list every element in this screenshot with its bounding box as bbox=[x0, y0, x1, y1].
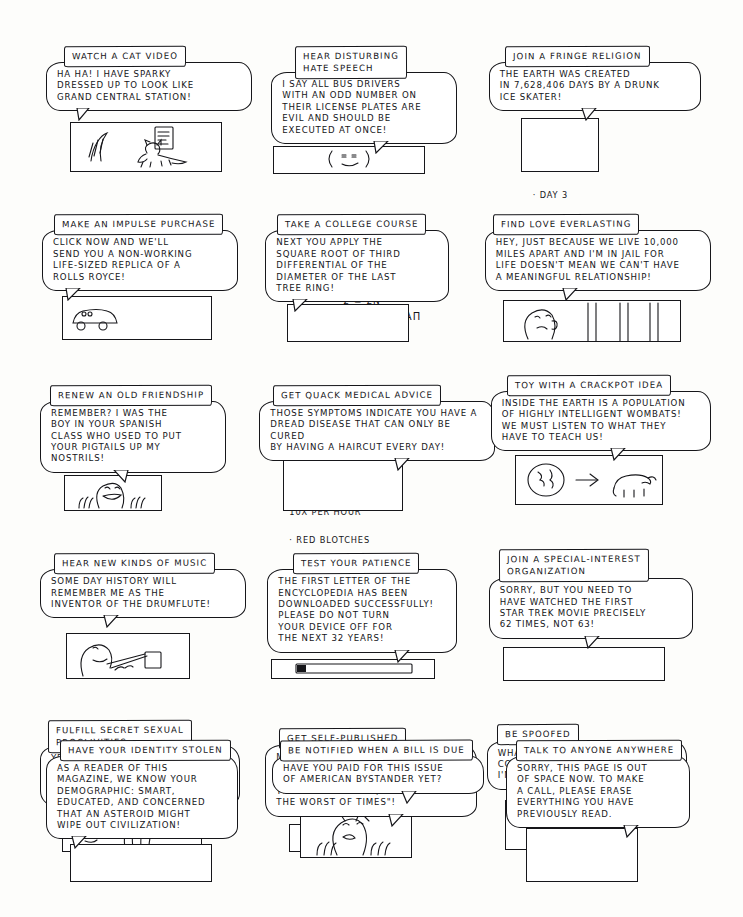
speech-bubble: INSIDE THE EARTH IS A POPULATION OF HIGH… bbox=[491, 391, 711, 452]
angry-face-small-icon bbox=[274, 147, 424, 173]
face-behind-bars-icon bbox=[504, 301, 680, 341]
panel-title-box: BE NOTIFIED WHEN A BILL IS DUE bbox=[280, 740, 473, 762]
panel-have-your-identity-stolen: HAVE YOUR IDENTITY STOLEN AS A READER OF… bbox=[46, 740, 256, 890]
panel-title: GET QUACK MEDICAL ADVICE bbox=[281, 388, 433, 401]
panel-title: HAVE YOUR IDENTITY STOLEN bbox=[68, 744, 223, 757]
panel-art-angry-face-small bbox=[273, 146, 425, 174]
panel-art-earth-arrow-wombat bbox=[515, 455, 663, 505]
bubble-tail-icon bbox=[582, 636, 602, 649]
speech-bubble: I SAY ALL BUS DRIVERS WITH AN ODD NUMBER… bbox=[271, 72, 457, 144]
earth-arrow-wombat-icon bbox=[516, 456, 662, 504]
panel-test-your-patience: TEST YOUR PATIENCE THE FIRST LETTER OF T… bbox=[263, 551, 482, 717]
speech-bubble: AS A READER OF THIS MAGAZINE, WE KNOW YO… bbox=[46, 756, 238, 839]
panel-title-box: TOY WITH A CRACKPOT IDEA bbox=[507, 374, 671, 396]
panel-hear-new-kinds-of-music: HEAR NEW KINDS OF MUSIC SOME DAY HISTORY… bbox=[40, 551, 259, 717]
cat-in-costume-icon bbox=[71, 123, 221, 171]
panel-title: MAKE AN IMPULSE PURCHASE bbox=[62, 218, 215, 231]
speech-bubble: HEY, JUST BECAUSE WE LIVE 10,000 MILES A… bbox=[485, 230, 711, 291]
panel-title: TEST YOUR PATIENCE bbox=[301, 557, 412, 569]
bubble-tail-icon bbox=[621, 825, 641, 838]
bubble-tail-icon bbox=[101, 615, 121, 628]
speech-bubble: THE EARTH WAS CREATED IN 7,628,406 DAYS … bbox=[489, 62, 701, 111]
panel-title-box: TEST YOUR PATIENCE bbox=[293, 553, 420, 575]
panel-art-symptom-list bbox=[283, 459, 403, 511]
panel-art-day-list bbox=[521, 118, 599, 172]
panel-renew-an-old-friendship: RENEW AN OLD FRIENDSHIP REMEMBER? I WAS … bbox=[40, 383, 259, 549]
panel-hear-disturbing-hate-speech: HEAR DISTURBING HATE SPEECH I SAY ALL BU… bbox=[263, 46, 482, 212]
panel-toy-with-a-crackpot-idea: TOY WITH A CRACKPOT IDEA INSIDE THE EART… bbox=[487, 383, 706, 549]
panel-art-you-arrow-us bbox=[70, 844, 212, 882]
bubble-tail-icon bbox=[111, 470, 131, 483]
panel-join-a-special-interest-organization: JOIN A SPECIAL-INTEREST ORGANIZATION SOR… bbox=[487, 551, 706, 717]
speech-text: CLICK NOW AND WE'LL SEND YOU A NON-WORKI… bbox=[53, 237, 225, 283]
speech-bubble: SORRY, BUT YOU NEED TO HAVE WATCHED THE … bbox=[489, 578, 693, 639]
bubble-tail-icon bbox=[580, 108, 600, 121]
speech-text: AS A READER OF THIS MAGAZINE, WE KNOW YO… bbox=[57, 763, 225, 831]
panel-title: HEAR DISTURBING HATE SPEECH bbox=[303, 50, 399, 74]
bubble-tail-icon bbox=[63, 288, 83, 301]
panel-art-car-and-buy-button bbox=[62, 296, 212, 340]
speech-bubble: HA HA! I HAVE SPARKY DRESSED UP TO LOOK … bbox=[46, 62, 252, 111]
speech-bubble: SOME DAY HISTORY WILL REMEMBER ME AS THE… bbox=[40, 569, 246, 618]
panel-title: BE NOTIFIED WHEN A BILL IS DUE bbox=[288, 744, 465, 757]
speech-bubble: THE FIRST LETTER OF THE ENCYCLOPEDIA HAS… bbox=[267, 569, 457, 652]
panel-title-box: GET QUACK MEDICAL ADVICE bbox=[273, 384, 441, 406]
speech-text: THE FIRST LETTER OF THE ENCYCLOPEDIA HAS… bbox=[278, 576, 444, 644]
bubble-tail-icon bbox=[69, 836, 89, 849]
panel-find-love-everlasting: FIND LOVE EVERLASTING HEY, JUST BECAUSE … bbox=[487, 214, 706, 380]
panel-title-box: MAKE AN IMPULSE PURCHASE bbox=[54, 214, 223, 236]
speech-text: HEY, JUST BECAUSE WE LIVE 10,000 MILES A… bbox=[496, 237, 698, 283]
bubble-tail-icon bbox=[392, 458, 412, 471]
speech-text: HAVE YOU PAID FOR THIS ISSUE OF AMERICAN… bbox=[283, 763, 471, 786]
panel-art-declined-button bbox=[503, 647, 665, 681]
panel-join-a-fringe-religion: JOIN A FRINGE RELIGION THE EARTH WAS CRE… bbox=[487, 46, 706, 212]
panel-title-box: RENEW AN OLD FRIENDSHIP bbox=[50, 384, 212, 406]
panel-title: TOY WITH A CRACKPOT IDEA bbox=[515, 378, 663, 391]
panel-title: WATCH A CAT VIDEO bbox=[72, 50, 178, 62]
panel-art-face-behind-bars bbox=[503, 300, 681, 342]
speech-bubble: SORRY, THIS PAGE IS OUT OF SPACE NOW. TO… bbox=[506, 756, 690, 828]
speech-text: REMEMBER? I WAS THE BOY IN YOUR SPANISH … bbox=[51, 408, 213, 465]
panel-art-cat-in-costume bbox=[70, 122, 222, 172]
speech-bubble: NEXT YOU APPLY THE SQUARE ROOT OF THIRD … bbox=[265, 230, 449, 302]
speech-bubble: REMEMBER? I WAS THE BOY IN YOUR SPANISH … bbox=[40, 401, 226, 473]
panel-take-a-college-course: TAKE A COLLEGE COURSE NEXT YOU APPLY THE… bbox=[263, 214, 482, 380]
panel-title: JOIN A SPECIAL-INTEREST ORGANIZATION bbox=[507, 553, 641, 578]
panel-title-box: JOIN A SPECIAL-INTEREST ORGANIZATION bbox=[499, 549, 649, 583]
cartoon-page: WATCH A CAT VIDEO HA HA! I HAVE SPARKY D… bbox=[0, 0, 743, 917]
panel-get-quack-medical-advice: GET QUACK MEDICAL ADVICE THOSE SYMPTOMS … bbox=[263, 383, 482, 549]
panel-talk-to-anyone-anywhere: TALK TO ANYONE ANYWHERE SORRY, THIS PAGE… bbox=[506, 740, 716, 890]
speech-text: SOME DAY HISTORY WILL REMEMBER ME AS THE… bbox=[51, 576, 233, 610]
panel-title-box: HEAR NEW KINDS OF MUSIC bbox=[54, 553, 215, 575]
panel-title: HEAR NEW KINDS OF MUSIC bbox=[62, 557, 207, 570]
speech-text: THE EARTH WAS CREATED IN 7,628,406 DAYS … bbox=[500, 69, 688, 103]
speech-text: INSIDE THE EARTH IS A POPULATION OF HIGH… bbox=[502, 398, 698, 444]
bubble-tail-icon bbox=[392, 650, 412, 663]
panel-title-box: FIND LOVE EVERLASTING bbox=[493, 214, 639, 236]
bubble-tail-icon bbox=[372, 141, 392, 154]
bubble-tail-icon bbox=[560, 288, 580, 301]
speech-bubble: HAVE YOU PAID FOR THIS ISSUE OF AMERICAN… bbox=[272, 756, 484, 794]
bubble-tail-icon bbox=[290, 299, 310, 312]
speech-text: SORRY, BUT YOU NEED TO HAVE WATCHED THE … bbox=[500, 585, 680, 631]
panel-title: TAKE A COLLEGE COURSE bbox=[285, 218, 418, 231]
bubble-tail-icon bbox=[608, 448, 628, 461]
panel-title: BE SPOOFED bbox=[505, 727, 571, 739]
day-item-3: · DAY 3 bbox=[533, 189, 568, 202]
panel-title: RENEW AN OLD FRIENDSHIP bbox=[58, 388, 204, 401]
speech-bubble: THOSE SYMPTOMS INDICATE YOU HAVE A DREAD… bbox=[259, 401, 495, 462]
panel-title: JOIN A FRINGE RELIGION bbox=[513, 50, 642, 63]
progress-bar-icon[interactable] bbox=[272, 660, 434, 678]
bubble-tail-icon bbox=[73, 108, 93, 121]
speech-text: I SAY ALL BUS DRIVERS WITH AN ODD NUMBER… bbox=[282, 79, 444, 136]
bubble-tail-icon bbox=[399, 791, 419, 804]
panel-title-box: TALK TO ANYONE ANYWHERE bbox=[516, 740, 682, 762]
panel-title-box: JOIN A FRINGE RELIGION bbox=[505, 46, 650, 68]
panel-title: FIND LOVE EVERLASTING bbox=[501, 218, 631, 231]
panel-make-an-impulse-purchase: MAKE AN IMPULSE PURCHASE CLICK NOW AND W… bbox=[40, 214, 259, 380]
bubble-tail-icon bbox=[386, 814, 406, 827]
panel-title: TALK TO ANYONE ANYWHERE bbox=[524, 744, 674, 757]
speech-text: THOSE SYMPTOMS INDICATE YOU HAVE A DREAD… bbox=[270, 408, 482, 454]
speech-text: HA HA! I HAVE SPARKY DRESSED UP TO LOOK … bbox=[57, 69, 239, 103]
symptom-item-3: · RED BLOTCHES bbox=[289, 533, 370, 547]
